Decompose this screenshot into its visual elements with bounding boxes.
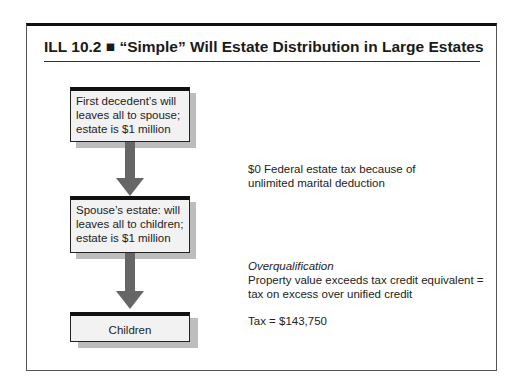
- arrow-shaft: [125, 253, 135, 293]
- box-line: Children: [76, 323, 184, 337]
- box-line: leaves all to children;: [76, 217, 184, 231]
- down-arrow-icon: [116, 291, 144, 309]
- box-line: estate is $1 million: [76, 231, 184, 245]
- overqualification-note: Overqualification Property value exceeds…: [248, 259, 484, 301]
- marital-deduction-note: $0 Federal estate tax because of unlimit…: [248, 162, 416, 190]
- note-line: tax on excess over unified credit: [248, 287, 484, 301]
- children-box: Children: [70, 312, 190, 342]
- note-heading: Overqualification: [248, 259, 484, 273]
- note-line: unlimited marital deduction: [248, 176, 416, 190]
- note-line: $0 Federal estate tax because of: [248, 162, 416, 176]
- tax-amount-note: Tax = $143,750: [248, 314, 327, 328]
- figure-title: ILL 10.2 ■ “Simple” Will Estate Distribu…: [44, 38, 484, 56]
- box-line: estate is $1 million: [76, 122, 184, 136]
- note-line: Property value exceeds tax credit equiva…: [248, 273, 484, 287]
- title-divider: [44, 61, 480, 62]
- box-line: First decedent’s will: [76, 94, 184, 108]
- box-line: Spouse’s estate: will: [76, 203, 184, 217]
- arrow-shaft: [125, 142, 135, 180]
- down-arrow-icon: [116, 178, 144, 196]
- box-line: leaves all to spouse;: [76, 108, 184, 122]
- spouse-estate-box: Spouse’s estate: will leaves all to chil…: [70, 196, 190, 253]
- first-decedent-box: First decedent’s will leaves all to spou…: [70, 87, 190, 142]
